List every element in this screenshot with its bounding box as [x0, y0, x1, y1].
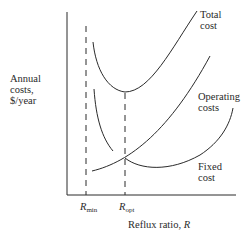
- fixed-cost-curve-left: [94, 89, 113, 151]
- x-axis-label: Reflux ratio, R: [128, 219, 190, 230]
- total-cost-curve: [93, 11, 197, 92]
- operating-costs-line-1: Operating: [198, 91, 240, 102]
- total-cost-line-2: cost: [200, 20, 221, 31]
- r-min-subscript: min: [86, 206, 97, 214]
- operating-costs-label: Operating costs: [198, 91, 240, 113]
- x-axis-label-text: Reflux ratio,: [128, 219, 184, 230]
- r-opt-label: Ropt: [119, 201, 134, 216]
- total-cost-line-1: Total: [200, 9, 221, 20]
- operating-costs-curve: [92, 56, 210, 171]
- r-opt-subscript: opt: [125, 206, 134, 214]
- y-axis-label: Annual costs, $/year: [10, 73, 41, 106]
- fixed-cost-curve-right: [125, 108, 233, 167]
- y-label-line-3: $/year: [10, 95, 41, 106]
- fixed-cost-label: Fixed cost: [198, 161, 222, 183]
- y-label-line-1: Annual: [10, 73, 41, 84]
- y-label-line-2: costs,: [10, 84, 41, 95]
- operating-costs-line-2: costs: [198, 102, 240, 113]
- total-cost-label: Total cost: [200, 9, 221, 31]
- fixed-cost-line-1: Fixed: [198, 161, 222, 172]
- x-axis-symbol: R: [184, 219, 190, 230]
- fixed-cost-line-2: cost: [198, 172, 222, 183]
- r-min-label: Rmin: [80, 201, 97, 216]
